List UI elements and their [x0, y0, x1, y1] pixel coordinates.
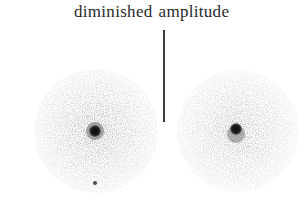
- left-speckle-pattern: [34, 69, 158, 193]
- right-speckle-pattern: [177, 70, 299, 192]
- speckle-figure: [0, 0, 304, 212]
